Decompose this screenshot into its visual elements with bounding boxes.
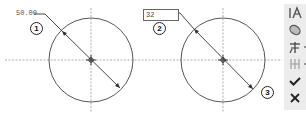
diameter-dimension-2[interactable]	[178, 13, 253, 89]
close-icon	[288, 91, 302, 105]
text-style-icon	[288, 6, 302, 20]
text-style-button[interactable]	[285, 4, 305, 21]
dimension-edit-box-2[interactable]: 32	[143, 9, 179, 21]
dropdown-dot	[304, 63, 306, 65]
fill-shape-icon	[288, 23, 302, 37]
fill-shape-button[interactable]	[285, 21, 305, 38]
center-mark-2	[218, 55, 228, 65]
dimension-arrows-icon	[288, 57, 302, 71]
dimension-placement-icon	[288, 40, 302, 54]
step-marker-2: 2	[153, 22, 166, 35]
checkmark-icon	[288, 74, 302, 88]
step-marker-1: 1	[30, 22, 43, 35]
cancel-button[interactable]	[285, 89, 305, 106]
dropdown-dot	[304, 46, 306, 48]
confirm-button[interactable]	[285, 72, 305, 89]
dimension-value-1[interactable]: 50.00	[16, 9, 37, 17]
dimension-arrows-button[interactable]	[285, 55, 305, 72]
diameter-dimension-1[interactable]	[34, 14, 120, 88]
step-marker-3: 3	[261, 86, 274, 99]
dimension-placement-button[interactable]	[285, 38, 305, 55]
dimension-toolbar	[284, 4, 306, 110]
